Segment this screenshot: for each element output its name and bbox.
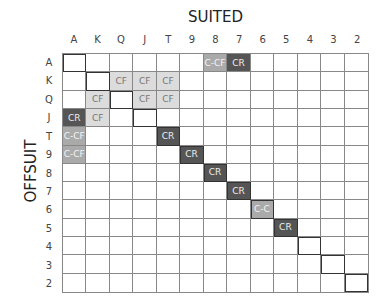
matrix-cell-2Q bbox=[110, 274, 133, 292]
matrix-cell-5K bbox=[86, 219, 109, 237]
matrix-cell-8K bbox=[86, 164, 109, 182]
matrix-cell-43 bbox=[321, 237, 344, 255]
matrix-cell-22 bbox=[345, 274, 368, 292]
matrix-cell-44 bbox=[298, 237, 321, 255]
matrix-cell-9T bbox=[157, 146, 180, 164]
matrix-cell-A6 bbox=[251, 54, 274, 72]
matrix-cell-A7: CR bbox=[227, 54, 250, 72]
matrix-cell-K2 bbox=[345, 72, 368, 90]
matrix-cell-A2 bbox=[345, 54, 368, 72]
matrix-cell-T8 bbox=[204, 127, 227, 145]
matrix-cell-65 bbox=[274, 200, 297, 218]
matrix-cell-83 bbox=[321, 164, 344, 182]
matrix-cell-94 bbox=[298, 146, 321, 164]
matrix-cell-47 bbox=[227, 237, 250, 255]
row-label-A: A bbox=[42, 53, 56, 71]
matrix-cell-2K bbox=[86, 274, 109, 292]
matrix-cell-Q9 bbox=[180, 91, 203, 109]
matrix-cell-Q3 bbox=[321, 91, 344, 109]
matrix-cell-Q7 bbox=[227, 91, 250, 109]
matrix-cell-28 bbox=[204, 274, 227, 292]
matrix-cell-5T bbox=[157, 219, 180, 237]
matrix-cell-6A bbox=[63, 200, 86, 218]
matrix-cell-24 bbox=[298, 274, 321, 292]
matrix-cell-3K bbox=[86, 255, 109, 273]
matrix-cell-52 bbox=[345, 219, 368, 237]
matrix-cell-3A bbox=[63, 255, 86, 273]
matrix-cell-QJ: CF bbox=[133, 91, 156, 109]
matrix-cell-K6 bbox=[251, 72, 274, 90]
matrix-cell-T2 bbox=[345, 127, 368, 145]
matrix-cell-95 bbox=[274, 146, 297, 164]
matrix-cell-JT bbox=[157, 109, 180, 127]
column-label-3: 3 bbox=[322, 34, 346, 50]
column-label-T: T bbox=[156, 34, 180, 50]
matrix-cell-5J bbox=[133, 219, 156, 237]
matrix-cell-A4 bbox=[298, 54, 321, 72]
matrix-cell-J8 bbox=[204, 109, 227, 127]
matrix-cell-34 bbox=[298, 255, 321, 273]
hand-matrix-grid: C-CFCRCFCFCFCFCFCFCRCFC-CFCRC-CFCRCRCRC-… bbox=[62, 53, 369, 293]
matrix-cell-59 bbox=[180, 219, 203, 237]
matrix-cell-2A bbox=[63, 274, 86, 292]
matrix-cell-57 bbox=[227, 219, 250, 237]
matrix-cell-85 bbox=[274, 164, 297, 182]
matrix-cell-J3 bbox=[321, 109, 344, 127]
matrix-cell-4K bbox=[86, 237, 109, 255]
matrix-cell-T7 bbox=[227, 127, 250, 145]
row-label-J: J bbox=[42, 108, 56, 126]
matrix-cell-66: C-C bbox=[251, 200, 274, 218]
matrix-cell-Q8 bbox=[204, 91, 227, 109]
matrix-cell-QT: CF bbox=[157, 91, 180, 109]
matrix-cell-8T bbox=[157, 164, 180, 182]
matrix-cell-87 bbox=[227, 164, 250, 182]
matrix-cell-42 bbox=[345, 237, 368, 255]
column-label-K: K bbox=[86, 34, 110, 50]
matrix-cell-AQ bbox=[110, 54, 133, 72]
matrix-cell-63 bbox=[321, 200, 344, 218]
row-label-2: 2 bbox=[42, 275, 56, 293]
matrix-cell-7K bbox=[86, 182, 109, 200]
matrix-cell-38 bbox=[204, 255, 227, 273]
matrix-cell-36 bbox=[251, 255, 274, 273]
matrix-cell-84 bbox=[298, 164, 321, 182]
matrix-cell-KT: CF bbox=[157, 72, 180, 90]
matrix-cell-5A bbox=[63, 219, 86, 237]
matrix-cell-26 bbox=[251, 274, 274, 292]
matrix-cell-JQ bbox=[110, 109, 133, 127]
row-label-5: 5 bbox=[42, 219, 56, 237]
column-label-A: A bbox=[62, 34, 86, 50]
row-label-3: 3 bbox=[42, 256, 56, 274]
matrix-cell-QK: CF bbox=[86, 91, 109, 109]
matrix-cell-A3 bbox=[321, 54, 344, 72]
matrix-cell-2T bbox=[157, 274, 180, 292]
matrix-cell-45 bbox=[274, 237, 297, 255]
matrix-cell-7A bbox=[63, 182, 86, 200]
column-labels: AKQJT98765432 bbox=[62, 34, 369, 50]
row-label-8: 8 bbox=[42, 164, 56, 182]
matrix-cell-8J bbox=[133, 164, 156, 182]
matrix-cell-8Q bbox=[110, 164, 133, 182]
matrix-cell-A9 bbox=[180, 54, 203, 72]
matrix-cell-T5 bbox=[274, 127, 297, 145]
column-label-6: 6 bbox=[251, 34, 275, 50]
row-label-6: 6 bbox=[42, 201, 56, 219]
matrix-cell-78 bbox=[204, 182, 227, 200]
column-label-7: 7 bbox=[227, 34, 251, 50]
matrix-cell-64 bbox=[298, 200, 321, 218]
row-label-Q: Q bbox=[42, 90, 56, 108]
matrix-cell-Q5 bbox=[274, 91, 297, 109]
matrix-cell-79 bbox=[180, 182, 203, 200]
matrix-cell-JJ bbox=[133, 109, 156, 127]
matrix-cell-3J bbox=[133, 255, 156, 273]
matrix-cell-29 bbox=[180, 274, 203, 292]
column-label-4: 4 bbox=[298, 34, 322, 50]
column-label-9: 9 bbox=[180, 34, 204, 50]
matrix-cell-75 bbox=[274, 182, 297, 200]
matrix-cell-K9 bbox=[180, 72, 203, 90]
matrix-cell-TT: CR bbox=[157, 127, 180, 145]
matrix-cell-K8 bbox=[204, 72, 227, 90]
matrix-cell-Q2 bbox=[345, 91, 368, 109]
matrix-cell-67 bbox=[227, 200, 250, 218]
matrix-cell-73 bbox=[321, 182, 344, 200]
